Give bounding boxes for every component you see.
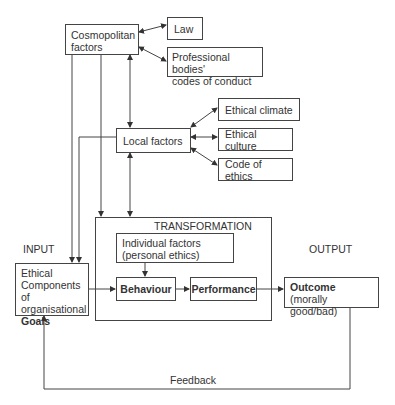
cosmopolitan-factors-box: Cosmopolitan factors <box>65 24 139 55</box>
outcome-line2: (morally good/bad) <box>290 293 373 317</box>
professional-bodies-box: Professional bodies' codes of conduct <box>167 47 263 77</box>
goals-box: Ethical Components of organisational Goa… <box>15 263 89 316</box>
behaviour-box: Behaviour <box>116 277 176 301</box>
goals-line3: organisational <box>21 303 83 315</box>
ethical-culture-label: Ethical culture <box>225 128 286 152</box>
performance-box: Performance <box>190 277 257 301</box>
ethical-culture-box: Ethical culture <box>218 128 293 151</box>
goals-line4: Goals <box>21 315 83 327</box>
outcome-box: Outcome (morally good/bad) <box>284 277 379 308</box>
performance-label: Performance <box>191 283 255 295</box>
code-of-ethics-box: Code of ethics <box>218 158 293 181</box>
local-factors-label: Local factors <box>123 135 183 147</box>
feedback-label: Feedback <box>170 374 216 386</box>
individual-factors-box: Individual factors (personal ethics) <box>116 233 234 263</box>
ethical-climate-box: Ethical climate <box>218 98 300 121</box>
transformation-label: TRANSFORMATION <box>154 220 252 232</box>
goals-line2: Components of <box>21 279 83 303</box>
law-box: Law <box>167 17 203 40</box>
outcome-line1: Outcome <box>290 281 373 293</box>
local-factors-box: Local factors <box>116 128 191 153</box>
law-label: Law <box>174 23 193 35</box>
input-label: INPUT <box>23 243 55 255</box>
cosmopolitan-line2: factors <box>71 41 133 53</box>
behaviour-label: Behaviour <box>120 283 171 295</box>
professional-line1: Professional bodies' <box>172 51 258 75</box>
goals-line1: Ethical <box>21 267 83 279</box>
ethical-climate-label: Ethical climate <box>225 104 293 116</box>
professional-line2: codes of conduct <box>172 75 258 87</box>
individual-line1: Individual factors <box>122 237 228 249</box>
cosmopolitan-line1: Cosmopolitan <box>71 29 133 41</box>
code-of-ethics-label: Code of ethics <box>225 158 286 182</box>
individual-line2: (personal ethics) <box>122 249 228 261</box>
output-label: OUTPUT <box>309 243 352 255</box>
